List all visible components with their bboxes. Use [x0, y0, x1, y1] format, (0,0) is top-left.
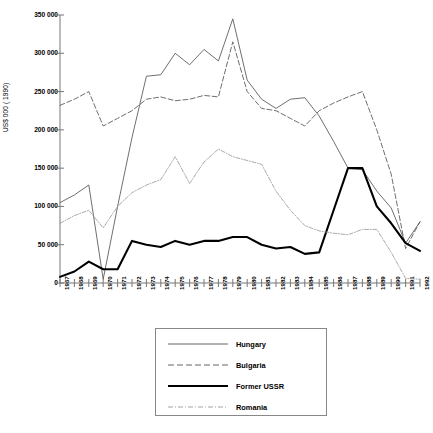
legend-item-hungary: Hungary	[156, 333, 326, 355]
legend-label-romania: Romania	[236, 403, 267, 412]
legend-swatch-hungary	[168, 339, 228, 349]
legend-label-former-ussr: Former USSR	[236, 382, 284, 391]
line-chart: US$ 000 ( 1990) 050 000100 000150 000200…	[0, 0, 433, 433]
legend-item-romania: Romania	[156, 396, 326, 418]
legend-swatch-bulgaria	[168, 360, 228, 370]
series-line-romania	[60, 149, 420, 279]
legend-swatch-former-ussr	[168, 381, 228, 391]
chart-legend: Hungary Bulgaria Former USSR Romania	[155, 328, 327, 416]
legend-item-bulgaria: Bulgaria	[156, 354, 326, 376]
series-line-hungary	[60, 19, 420, 279]
series-line-bulgaria	[60, 42, 420, 249]
legend-label-bulgaria: Bulgaria	[236, 361, 266, 370]
legend-item-former-ussr: Former USSR	[156, 375, 326, 397]
legend-label-hungary: Hungary	[236, 340, 266, 349]
legend-swatch-romania	[168, 402, 228, 412]
